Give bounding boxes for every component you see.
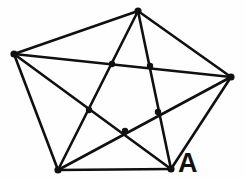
edge-crossing-mid-right (155, 109, 161, 115)
graph-vertex-right (227, 73, 234, 80)
graph-vertex-left (10, 50, 17, 57)
edge-crossing-mid-left (86, 107, 92, 113)
figure-canvas: A (0, 0, 246, 180)
edge-crossing-upper-left (109, 61, 115, 67)
edge-crossing-upper-right (147, 63, 153, 69)
graph-vertex-bottom_right (167, 165, 174, 172)
edge-crossing-bottom (122, 128, 128, 134)
graph-vertex-top (134, 7, 141, 14)
graph-edge-bottom_right-bottom_left (58, 169, 171, 170)
graph-drawing (0, 0, 246, 180)
graph-vertex-bottom_left (54, 166, 61, 173)
vertex-label-a: A (178, 150, 198, 177)
